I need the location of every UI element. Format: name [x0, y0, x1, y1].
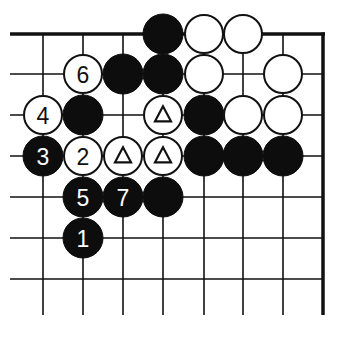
white-stone-6: 6: [64, 55, 102, 93]
move-number-label: 6: [77, 62, 90, 88]
white-stone-disc: [185, 55, 223, 93]
black-stone-disc: [143, 177, 183, 217]
white-stone: [264, 55, 302, 93]
white-stone-disc: [144, 96, 182, 134]
move-number-label: 7: [117, 185, 130, 211]
move-number-label: 2: [77, 144, 90, 170]
white-stone: [144, 137, 182, 175]
black-stone-disc: [63, 95, 103, 135]
go-board: 6432571: [0, 0, 340, 347]
black-stone-1: 1: [63, 218, 103, 258]
black-stone: [143, 54, 183, 94]
white-stone: [185, 15, 223, 53]
black-stone: [103, 54, 143, 94]
white-stone-disc: [264, 96, 302, 134]
move-number-label: 4: [37, 103, 50, 129]
white-stone-disc: [104, 137, 142, 175]
black-stone: [263, 136, 303, 176]
white-stone: [224, 15, 262, 53]
black-stone: [223, 136, 263, 176]
black-stone-7: 7: [103, 177, 143, 217]
white-stone-2: 2: [64, 137, 102, 175]
black-stone: [184, 95, 224, 135]
white-stone: [264, 96, 302, 134]
white-stone: [185, 55, 223, 93]
black-stone: [63, 95, 103, 135]
white-stone: [224, 96, 262, 134]
black-stone: [143, 14, 183, 54]
white-stone-disc: [224, 15, 262, 53]
white-stone-disc: [224, 96, 262, 134]
black-stone-disc: [103, 54, 143, 94]
black-stone-3: 3: [23, 136, 63, 176]
move-number-label: 1: [77, 226, 90, 252]
black-stone-disc: [143, 54, 183, 94]
black-stone-disc: [143, 14, 183, 54]
white-stone: [104, 137, 142, 175]
black-stone-disc: [263, 136, 303, 176]
white-stone: [144, 96, 182, 134]
move-number-label: 3: [37, 144, 50, 170]
white-stone-disc: [264, 55, 302, 93]
white-stone-disc: [144, 137, 182, 175]
white-stone-disc: [185, 15, 223, 53]
black-stone-disc: [223, 136, 263, 176]
white-stone-4: 4: [24, 96, 62, 134]
black-stone: [184, 136, 224, 176]
move-number-label: 5: [77, 185, 90, 211]
black-stone-disc: [184, 136, 224, 176]
black-stone-5: 5: [63, 177, 103, 217]
black-stone: [143, 177, 183, 217]
black-stone-disc: [184, 95, 224, 135]
